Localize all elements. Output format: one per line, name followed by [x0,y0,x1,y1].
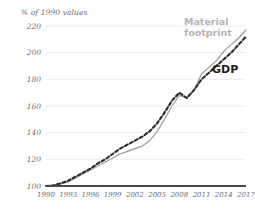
data-series-group [46,30,246,186]
series-line-gdp [46,37,246,186]
chart-svg [46,26,246,186]
x-axis-tick-1990: 1990 [37,191,55,199]
series-label-material-line2: footprint [184,27,232,38]
x-axis-tick-2014: 2014 [215,191,233,199]
x-axis-tick-2011: 2011 [193,191,211,199]
y-axis-tick-160: 160 [13,102,41,111]
x-axis-tick-1996: 1996 [82,191,100,199]
chart-figure: % of 1990 values 100120140160180200220 1… [0,0,255,218]
gridlines [46,26,246,159]
y-axis-tick-180: 180 [13,75,41,84]
x-axis-tick-2005: 2005 [148,191,166,199]
x-axis-tick-1993: 1993 [59,191,77,199]
series-line-material-footprint [46,30,246,186]
x-axis-tick-2008: 2008 [170,191,188,199]
y-axis-tick-220: 220 [13,22,41,31]
series-label-gdp: GDP [212,63,238,76]
y-axis-tick-100: 100 [13,182,41,191]
series-label-material-line1: Material [184,16,228,27]
y-axis-tick-120: 120 [13,155,41,164]
y-axis-tick-200: 200 [13,48,41,57]
y-axis-tick-140: 140 [13,128,41,137]
series-label-material-footprint: Material footprint [184,16,232,38]
x-axis-tick-2017: 2017 [237,191,255,199]
x-axis-tick-2002: 2002 [126,191,144,199]
plot-area [46,26,246,186]
y-axis-title: % of 1990 values [21,8,87,17]
x-axis-tick-1999: 1999 [104,191,122,199]
